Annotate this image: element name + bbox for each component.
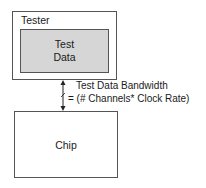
- test-data-label-line1: Test: [55, 38, 74, 51]
- test-data-label-line2: Data: [53, 51, 75, 64]
- chip-box: Chip: [14, 111, 118, 178]
- bidirectional-arrow-icon: [58, 80, 68, 111]
- test-data-box: Test Data: [20, 29, 109, 73]
- bandwidth-label: Test Data Bandwidth = (# Channels* Clock…: [68, 80, 189, 105]
- chip-label: Chip: [55, 139, 77, 151]
- bandwidth-label-line1: Test Data Bandwidth: [68, 80, 189, 93]
- tester-label: Tester: [21, 14, 50, 26]
- bandwidth-label-line2: = (# Channels* Clock Rate): [68, 93, 189, 106]
